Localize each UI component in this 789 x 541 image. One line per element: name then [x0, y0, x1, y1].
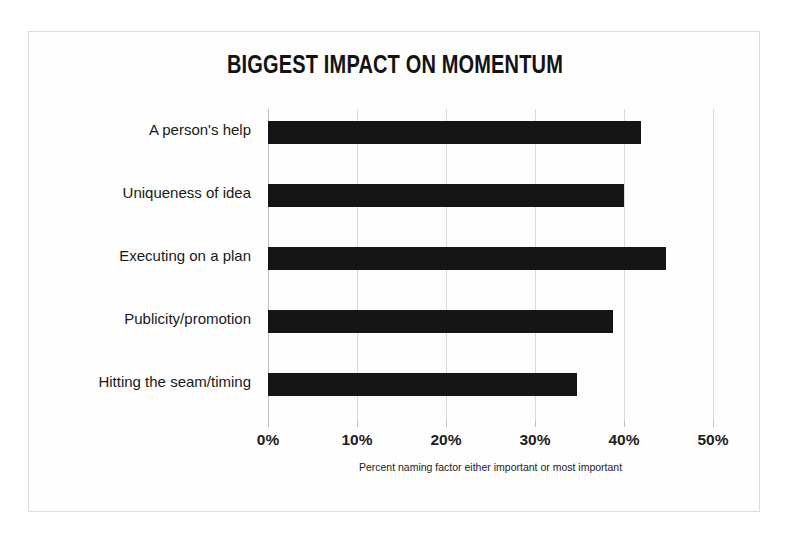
- x-tick-label-50: 50%: [673, 431, 753, 449]
- x-tick-0: [268, 421, 269, 427]
- category-label: A person's help: [21, 121, 251, 138]
- x-tick-label-10: 10%: [317, 431, 397, 449]
- bar: [268, 121, 641, 144]
- x-tick-label-20: 20%: [406, 431, 486, 449]
- x-axis-caption: Percent naming factor either important o…: [268, 461, 713, 473]
- bar: [268, 184, 624, 207]
- screenshot-root: BIGGEST IMPACT ON MOMENTUM Percent namin…: [0, 0, 789, 541]
- x-tick-40: [624, 421, 625, 427]
- bar-row: Executing on a plan: [268, 247, 713, 270]
- bar: [268, 310, 613, 333]
- bar-row: Publicity/promotion: [268, 310, 713, 333]
- category-label: Publicity/promotion: [21, 310, 251, 327]
- bar-row: A person's help: [268, 121, 713, 144]
- x-tick-30: [535, 421, 536, 427]
- bar-row: Hitting the seam/timing: [268, 373, 713, 396]
- gridline-50: [713, 109, 714, 421]
- x-tick-20: [446, 421, 447, 427]
- x-tick-label-30: 30%: [495, 431, 575, 449]
- bar: [268, 247, 666, 270]
- plot-area: Percent naming factor either important o…: [268, 109, 713, 421]
- category-label: Uniqueness of idea: [21, 184, 251, 201]
- chart-frame: BIGGEST IMPACT ON MOMENTUM Percent namin…: [28, 31, 760, 512]
- chart-title: BIGGEST IMPACT ON MOMENTUM: [102, 50, 688, 79]
- bar: [268, 373, 577, 396]
- x-tick-10: [357, 421, 358, 427]
- x-tick-label-40: 40%: [584, 431, 664, 449]
- category-label: Executing on a plan: [21, 247, 251, 264]
- x-tick-label-0: 0%: [228, 431, 308, 449]
- x-tick-50: [713, 421, 714, 427]
- category-label: Hitting the seam/timing: [21, 373, 251, 390]
- bar-row: Uniqueness of idea: [268, 184, 713, 207]
